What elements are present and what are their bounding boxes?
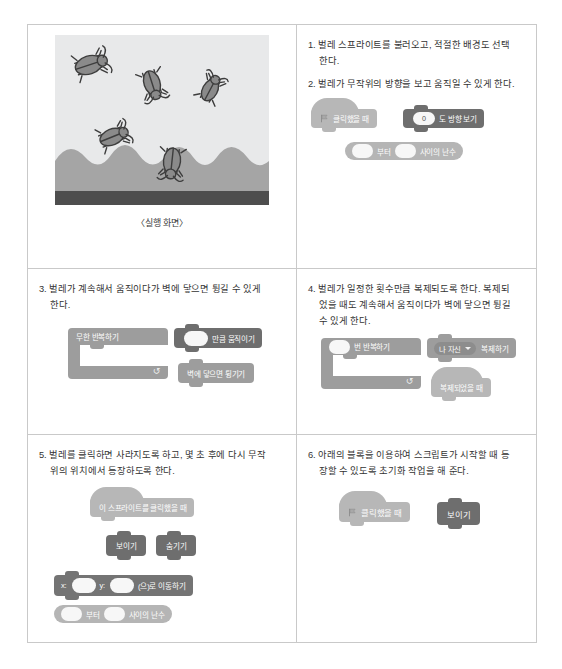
step-2-text: 2. 벌레가 무작위의 방향을 보고 움직일 수 있게 한다. bbox=[297, 70, 536, 92]
step-6-blocks: 클릭했을 때 보이기 bbox=[297, 480, 536, 550]
step-3-cell: 3. 벌레가 계속해서 움직이다가 벽에 닿으면 튕길 수 있게 한다. 무한 … bbox=[28, 269, 296, 434]
block-repeat[interactable]: 번 반복하기 ↻ bbox=[321, 338, 421, 393]
repeat-count-input[interactable] bbox=[329, 340, 350, 354]
step-5-blocks: 이 스프라이트를 클릭했을 때 보이기 숨기기 x: y: bbox=[28, 480, 296, 625]
loop-arrow-icon: ↻ bbox=[153, 366, 161, 376]
block-when-i-start-as-clone[interactable]: 복제되었을 때 bbox=[431, 378, 491, 397]
random-from-input[interactable] bbox=[352, 144, 373, 158]
step-1-line-1: 1. 벌레 스프라이트를 불러오고, 적절한 배경도 선택 bbox=[308, 38, 524, 53]
block-when-sprite-clicked[interactable]: 이 스프라이트를 클릭했을 때 bbox=[90, 498, 194, 517]
goto-x-input[interactable] bbox=[72, 578, 96, 593]
forever-arm bbox=[68, 345, 80, 366]
block-forever[interactable]: 무한 반복하기 ↻ bbox=[68, 328, 168, 383]
goto-y-input[interactable] bbox=[110, 578, 134, 593]
step-5-line-1: 5. 벌레를 클릭하면 사라지도록 하고, 몇 초 후에 다시 무작 bbox=[39, 448, 284, 463]
step-2-line-1: 2. 벌레가 무작위의 방향을 보고 움직일 수 있게 한다. bbox=[308, 77, 524, 92]
green-flag-icon bbox=[320, 114, 329, 123]
green-flag-icon bbox=[348, 508, 357, 517]
show-label: 보이기 bbox=[116, 540, 136, 551]
block-hide[interactable]: 숨기기 bbox=[156, 535, 196, 556]
step-3-line-2: 한다. bbox=[39, 298, 284, 313]
pick-random-to-label: 사이의 난수 bbox=[420, 146, 456, 157]
chevron-down-icon bbox=[465, 347, 471, 350]
repeat-bottom: ↻ bbox=[321, 376, 421, 389]
block-when-flag-clicked[interactable]: 클릭했을 때 bbox=[339, 502, 410, 522]
step-1-text: 1. 벌레 스프라이트를 불러오고, 적절한 배경도 선택 한다. bbox=[297, 25, 536, 69]
forever-bottom: ↻ bbox=[68, 366, 168, 379]
loop-arrow-icon: ↻ bbox=[406, 376, 414, 386]
repeat-arm bbox=[321, 355, 333, 376]
step-3-line-1: 3. 벌레가 계속해서 움직이다가 벽에 닿으면 튕길 수 있게 bbox=[39, 282, 284, 297]
step-6-line-2: 장할 수 있도록 초기화 작업을 해 준다. bbox=[308, 464, 524, 479]
stage-caption: 〈실행 화면〉 bbox=[28, 216, 296, 229]
step-6-text: 6. 아래의 블록을 이용하여 스크립트가 시작할 때 등 장할 수 있도록 초… bbox=[297, 435, 536, 479]
forever-top: 무한 반복하기 bbox=[68, 328, 168, 345]
repeat-top: 번 반복하기 bbox=[321, 338, 421, 355]
step-6-cell: 6. 아래의 블록을 이용하여 스크립트가 시작할 때 등 장할 수 있도록 초… bbox=[296, 435, 536, 642]
table-row: 〈실행 화면〉 1. 벌레 스프라이트를 불러오고, 적절한 배경도 선택 한다… bbox=[28, 25, 536, 268]
step-3-text: 3. 벌레가 계속해서 움직이다가 벽에 닿으면 튕길 수 있게 한다. bbox=[28, 269, 296, 313]
step-4-text: 4. 벌레가 일정한 횟수만큼 복제되도록 한다. 복제되 었을 때도 계속해서… bbox=[297, 269, 536, 329]
step-5-text: 5. 벌레를 클릭하면 사라지도록 하고, 몇 초 후에 다시 무작 위의 위치… bbox=[28, 435, 296, 479]
block-move-steps[interactable]: 만큼 움직이기 bbox=[174, 328, 262, 348]
block-show[interactable]: 보이기 bbox=[106, 535, 146, 556]
random-to-input[interactable] bbox=[104, 607, 125, 621]
if-on-edge-bounce-label: 벽에 닿으면 튕기기 bbox=[187, 368, 245, 379]
hide-label: 숨기기 bbox=[166, 540, 186, 551]
when-flag-clicked-label: 클릭했을 때 bbox=[333, 113, 369, 124]
step-2-blocks: 클릭했을 때 0 도 방향 보기 부터 사이의 난수 bbox=[297, 93, 536, 177]
block-pick-random[interactable]: 부터 사이의 난수 bbox=[54, 605, 172, 623]
pick-random-from-label: 부터 bbox=[86, 609, 100, 620]
table-row: 3. 벌레가 계속해서 움직이다가 벽에 닿으면 튕길 수 있게 한다. 무한 … bbox=[28, 268, 536, 434]
step-6-line-1: 6. 아래의 블록을 이용하여 스크립트가 시작할 때 등 bbox=[308, 448, 524, 463]
step-5-line-2: 위의 위치에서 등장하도록 한다. bbox=[39, 464, 284, 479]
move-steps-input[interactable] bbox=[184, 331, 208, 346]
goto-label: (으)로 이동하기 bbox=[138, 580, 185, 591]
worksheet-page: 〈실행 화면〉 1. 벌레 스프라이트를 불러오고, 적절한 배경도 선택 한다… bbox=[0, 0, 562, 669]
forever-label: 무한 반복하기 bbox=[76, 331, 119, 342]
block-point-in-direction[interactable]: 0 도 방향 보기 bbox=[403, 109, 484, 128]
step-4-line-2: 었을 때도 계속해서 움직이다가 벽에 닿으면 튕길 bbox=[308, 298, 524, 313]
block-if-on-edge-bounce[interactable]: 벽에 닿으면 튕기기 bbox=[178, 363, 254, 383]
when-sprite-clicked-label: 이 스프라이트를 클릭했을 때 bbox=[99, 502, 186, 513]
clone-target-dropdown[interactable]: 나 자신 bbox=[434, 342, 476, 355]
block-show[interactable]: 보이기 bbox=[437, 502, 480, 525]
step-4-cell: 4. 벌레가 일정한 횟수만큼 복제되도록 한다. 복제되 었을 때도 계속해서… bbox=[296, 269, 536, 434]
activity-table: 〈실행 화면〉 1. 벌레 스프라이트를 불러오고, 적절한 배경도 선택 한다… bbox=[27, 24, 537, 643]
move-steps-label: 만큼 움직이기 bbox=[212, 333, 255, 344]
pick-random-from-label: 부터 bbox=[377, 146, 391, 157]
step-3-blocks: 무한 반복하기 ↻ 만큼 움직이기 bbox=[28, 314, 296, 406]
stage-figure-cell: 〈실행 화면〉 bbox=[28, 25, 296, 268]
when-i-start-as-clone-label: 복제되었을 때 bbox=[440, 382, 483, 393]
block-when-flag-clicked[interactable]: 클릭했을 때 bbox=[311, 109, 377, 128]
block-pick-random[interactable]: 부터 사이의 난수 bbox=[345, 142, 463, 160]
step-4-blocks: 번 반복하기 ↻ 나 자신 복제하기 bbox=[297, 330, 536, 410]
execution-screen-image bbox=[55, 35, 269, 205]
block-go-to-xy[interactable]: x: y: (으)로 이동하기 bbox=[54, 575, 193, 596]
random-to-input[interactable] bbox=[395, 144, 416, 158]
clone-target-label: 나 자신 bbox=[439, 343, 461, 354]
repeat-label: 번 반복하기 bbox=[354, 341, 390, 352]
when-flag-clicked-label: 클릭했을 때 bbox=[361, 506, 402, 518]
block-create-clone[interactable]: 나 자신 복제하기 bbox=[427, 338, 516, 358]
create-clone-label: 복제하기 bbox=[481, 343, 508, 354]
pick-random-to-label: 사이의 난수 bbox=[129, 609, 165, 620]
steps-1-2-cell: 1. 벌레 스프라이트를 불러오고, 적절한 배경도 선택 한다. 2. 벌레가… bbox=[296, 25, 536, 268]
goto-x-label: x: bbox=[61, 581, 67, 590]
step-5-cell: 5. 벌레를 클릭하면 사라지도록 하고, 몇 초 후에 다시 무작 위의 위치… bbox=[28, 435, 296, 642]
goto-y-label: y: bbox=[100, 581, 106, 590]
direction-value-input[interactable]: 0 bbox=[413, 112, 435, 125]
step-1-line-2: 한다. bbox=[308, 54, 524, 69]
table-row: 5. 벌레를 클릭하면 사라지도록 하고, 몇 초 후에 다시 무작 위의 위치… bbox=[28, 434, 536, 642]
show-label: 보이기 bbox=[447, 508, 470, 520]
random-from-input[interactable] bbox=[61, 607, 82, 621]
point-in-direction-label: 도 방향 보기 bbox=[439, 113, 477, 124]
bug-sprites bbox=[55, 35, 269, 205]
step-4-line-1: 4. 벌레가 일정한 횟수만큼 복제되도록 한다. 복제되 bbox=[308, 282, 524, 297]
step-4-line-3: 수 있게 한다. bbox=[308, 314, 524, 329]
